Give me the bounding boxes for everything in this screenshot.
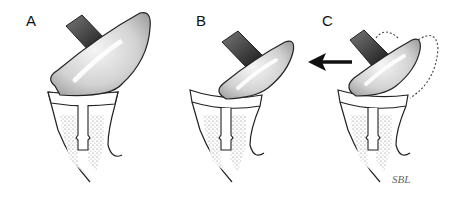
panel-label-b: B: [196, 12, 206, 29]
panel-b: B: [190, 12, 294, 182]
panel-label-a: A: [26, 12, 36, 29]
diagram-canvas: A B C SB: [0, 0, 462, 197]
panel-c: C SBL: [308, 12, 438, 185]
stem-slot: [219, 108, 233, 150]
panel-label-c: C: [322, 12, 333, 29]
stem-slot: [366, 108, 380, 150]
artist-signature: SBL: [392, 173, 410, 185]
stem-slot: [76, 105, 90, 150]
panel-a: A: [26, 12, 150, 182]
bone-stipple-right: [88, 115, 104, 172]
bone-stipple-right: [230, 115, 246, 172]
